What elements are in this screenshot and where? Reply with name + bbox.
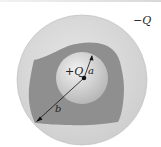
outer-charge-label: −Q — [133, 15, 151, 26]
inner-charge-label: +Q — [65, 66, 83, 77]
radius-a-label: a — [88, 66, 94, 76]
distance-b-label: b — [55, 104, 61, 114]
